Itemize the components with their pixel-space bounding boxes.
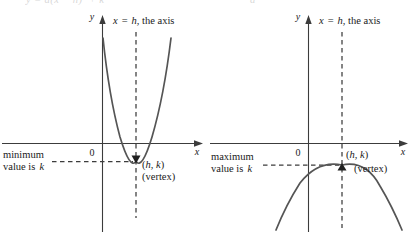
axis-sym-rest-left: , the axis [137,15,175,26]
y-axis-label-right: y [295,11,301,22]
maximum-value-label-line2: value isk [211,163,252,174]
axis-sym-equals-left: = [122,15,128,26]
y-axis-label-left: y [89,11,95,22]
quadratic-vertex-form-figure: y = a(x − h)² + k a y x 0 x=h, the axis … [0,0,416,238]
x-axis-label-left: x [194,146,200,157]
vertex-paren-close-left: ) [161,159,165,171]
x-axis-label-right: x [400,146,406,157]
y-axis-arrowhead-right [305,15,311,24]
minimum-value-label-k: k [39,161,44,172]
minimum-value-label-text: value is [3,161,35,172]
axis-of-symmetry-label-right: x=h, the axis [318,15,380,26]
vertex-coordinate-label-left: (h, k) [142,159,165,171]
minimum-value-label-line2: value isk [3,161,44,172]
axis-sym-equals-right: = [328,15,334,26]
vertex-paren-close-right: ) [365,149,369,161]
vertex-sublabel-right: (vertex) [354,163,388,175]
y-axis-arrowhead-left [99,15,105,24]
axis-sym-x-right: x [318,15,324,26]
vertex-sublabel-left: (vertex) [142,171,176,183]
maximum-value-label-k: k [247,163,252,174]
axis-sym-x-left: x [112,15,118,26]
maximum-value-label-line1: maximum [211,151,254,162]
axis-sym-rest-right: , the axis [343,15,381,26]
maximum-panel: y x 0 x=h, the axis maximum value isk (h… [208,0,416,238]
parabola-curve-minimum [103,38,171,163]
vertex-coordinate-label-right: (h, k) [346,149,369,161]
maximum-value-label-text: value is [211,163,243,174]
minimum-panel: y x 0 x=h, the axis minimum value isk (h… [0,0,208,238]
axis-of-symmetry-label-left: x=h, the axis [112,15,174,26]
minimum-value-label-line1: minimum [3,149,44,160]
origin-label-left: 0 [90,147,95,158]
origin-label-right: 0 [296,147,301,158]
